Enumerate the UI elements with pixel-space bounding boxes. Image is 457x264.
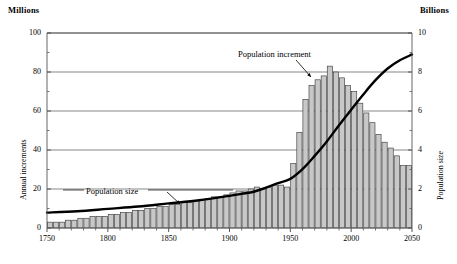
plot-canvas	[0, 0, 457, 264]
right-tick-10: 10	[418, 28, 426, 37]
left-tick-100: 100	[11, 28, 41, 37]
left-tick-60: 60	[11, 106, 41, 115]
bar-series-population-increment	[47, 66, 411, 228]
right-tick-6: 6	[418, 106, 422, 115]
x-tick-1750: 1750	[29, 234, 65, 243]
left-tick-20: 20	[11, 184, 41, 193]
x-tick-1900: 1900	[212, 234, 248, 243]
axis-lines-and-ticks	[47, 33, 412, 232]
right-tick-4: 4	[418, 145, 422, 154]
x-tick-1850: 1850	[151, 234, 187, 243]
left-tick-0: 0	[11, 223, 41, 232]
gridlines	[47, 33, 412, 189]
x-tick-1800: 1800	[90, 234, 126, 243]
right-tick-8: 8	[418, 67, 422, 76]
left-tick-80: 80	[11, 67, 41, 76]
left-tick-40: 40	[11, 145, 41, 154]
population-growth-chart: Millions Billions Annual increments Popu…	[0, 0, 457, 264]
x-tick-1950: 1950	[272, 234, 308, 243]
annotation-leader-lines	[63, 60, 311, 204]
x-tick-2050: 2050	[394, 234, 430, 243]
right-tick-2: 2	[418, 184, 422, 193]
right-tick-0: 0	[418, 223, 422, 232]
x-tick-2000: 2000	[333, 234, 369, 243]
